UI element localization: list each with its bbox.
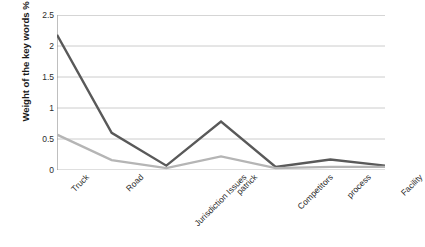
series-line-series-light <box>57 135 385 168</box>
x-tick-label: Truck <box>69 172 91 194</box>
y-tick-label: 1 <box>26 103 54 113</box>
gridlines <box>57 15 385 170</box>
y-tick-label: 2.5 <box>26 10 54 20</box>
x-tick-label: Facility <box>399 172 425 198</box>
axis-lines <box>57 15 385 170</box>
x-axis-tick-labels: TruckRoadJurisdiction IssuespatrickCompe… <box>57 172 385 247</box>
y-axis-tick-labels: 00.511.522.5 <box>26 0 54 247</box>
x-tick-label: Competitors <box>295 172 334 211</box>
series-line-series-dark <box>57 35 385 167</box>
plot-svg <box>57 15 385 170</box>
y-tick-label: 0.5 <box>26 134 54 144</box>
y-tick-label: 2 <box>26 41 54 51</box>
x-tick-label: Road <box>124 172 145 193</box>
plot-area <box>57 15 385 170</box>
x-tick-label: process <box>345 172 373 200</box>
series-lines <box>57 35 385 168</box>
y-tick-label: 0 <box>26 165 54 175</box>
y-tick-label: 1.5 <box>26 72 54 82</box>
x-tick-label: Jurisdiction Issues <box>193 172 249 228</box>
